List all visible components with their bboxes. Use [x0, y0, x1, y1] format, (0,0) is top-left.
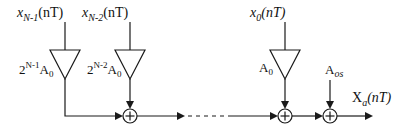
input-x-n-minus-2: xN-2(nT) — [81, 5, 130, 50]
svg-text:2N-1A0: 2N-1A0 — [19, 60, 54, 79]
input-x-n-minus-1: xN-1(nT) — [16, 5, 65, 50]
svg-text:xN-1(nT): xN-1(nT) — [16, 5, 63, 23]
amplifier-gain-n-minus-2: 2N-2A0 — [87, 50, 145, 79]
arrow-head-icon — [365, 112, 373, 120]
svg-text:x0(nT): x0(nT) — [249, 5, 286, 23]
arrow-head-icon — [177, 112, 185, 120]
svg-text:xN-2(nT): xN-2(nT) — [81, 5, 128, 23]
offset-input: Aos — [325, 62, 343, 109]
arrow-head-icon — [281, 101, 289, 109]
triangle-amplifier-icon — [50, 50, 80, 79]
arrow-head-icon — [270, 112, 278, 120]
svg-text:A0: A0 — [259, 60, 273, 77]
svg-text:Aos: Aos — [325, 62, 343, 79]
output-label: Xa(nT) — [352, 90, 392, 108]
triangle-amplifier-icon — [270, 50, 300, 79]
arrow-head-icon — [315, 112, 323, 120]
arrow-head-icon — [126, 101, 134, 109]
arrow-head-icon — [326, 101, 334, 109]
summer-offset — [323, 109, 337, 123]
amplifier-gain-n-minus-1: 2N-1A0 — [19, 50, 80, 79]
arrow-head-icon — [115, 112, 123, 120]
summer-1 — [123, 109, 137, 123]
block-diagram: xN-1(nT) 2N-1A0 xN-2(nT) 2N-2A0 x0(nT) A — [0, 0, 410, 133]
summer-2 — [278, 109, 292, 123]
signal-path-1 — [65, 79, 117, 116]
svg-text:2N-2A0: 2N-2A0 — [87, 60, 122, 79]
input-x-0: x0(nT) — [249, 5, 286, 50]
amplifier-gain-0: A0 — [259, 50, 300, 79]
